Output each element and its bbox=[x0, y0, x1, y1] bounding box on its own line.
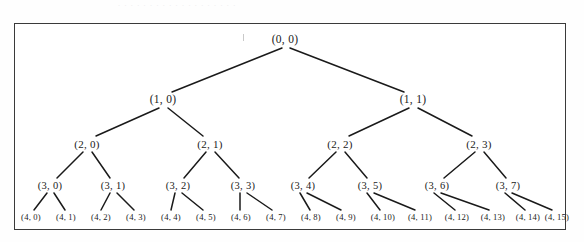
caption-remnant-text: . . . . . . . . . . . . . . . . . . . bbox=[118, 0, 468, 8]
tree-node: (0, 0) bbox=[272, 34, 299, 46]
tree-node: (4, 13) bbox=[481, 213, 505, 222]
tree-node: (1, 0) bbox=[150, 94, 177, 106]
tree-figure-border bbox=[14, 23, 566, 230]
tree-node: (4, 15) bbox=[545, 213, 569, 222]
tree-node: (4, 3) bbox=[126, 213, 146, 222]
tree-node: (4, 4) bbox=[161, 213, 181, 222]
tree-node: (1, 1) bbox=[400, 94, 427, 106]
tree-node: (3, 3) bbox=[231, 181, 256, 192]
tree-node: (3, 7) bbox=[496, 181, 521, 192]
tree-node: (4, 7) bbox=[266, 213, 286, 222]
figure-page: . . . . . . . . . . . . . . . . . . . (0… bbox=[0, 0, 584, 242]
tree-node: (3, 0) bbox=[38, 181, 63, 192]
tree-node: (4, 0) bbox=[21, 213, 41, 222]
tree-node: (3, 5) bbox=[358, 181, 383, 192]
tree-node: (4, 12) bbox=[445, 213, 469, 222]
tree-node: (3, 2) bbox=[166, 181, 191, 192]
tree-node: (3, 6) bbox=[425, 181, 450, 192]
root-tick-mark bbox=[243, 34, 244, 41]
tree-node: (4, 10) bbox=[371, 213, 395, 222]
tree-node: (4, 9) bbox=[336, 213, 356, 222]
tree-node: (2, 1) bbox=[197, 139, 223, 150]
tree-node: (2, 2) bbox=[327, 139, 353, 150]
tree-node: (2, 0) bbox=[74, 139, 100, 150]
tree-node: (4, 14) bbox=[516, 213, 540, 222]
tree-node: (3, 1) bbox=[101, 181, 126, 192]
tree-node: (4, 5) bbox=[196, 213, 216, 222]
tree-node: (3, 4) bbox=[291, 181, 316, 192]
tree-node: (4, 8) bbox=[301, 213, 321, 222]
tree-node: (4, 6) bbox=[231, 213, 251, 222]
tree-node: (4, 2) bbox=[91, 213, 111, 222]
tree-node: (2, 3) bbox=[466, 139, 492, 150]
tree-node: (4, 1) bbox=[56, 213, 76, 222]
tree-node: (4, 11) bbox=[408, 213, 432, 222]
